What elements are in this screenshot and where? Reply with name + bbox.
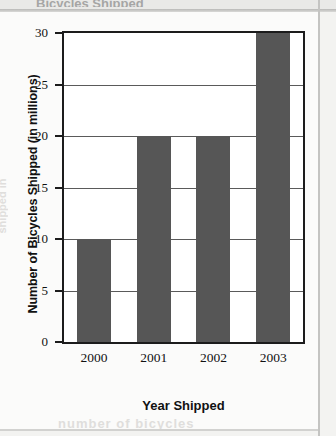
y-tick-label: 25 xyxy=(14,77,48,93)
y-tick-mark xyxy=(55,84,62,86)
bar xyxy=(137,136,171,342)
y-tick-label: 0 xyxy=(14,334,48,350)
x-axis-title: Year Shipped xyxy=(62,398,305,413)
y-tick-mark xyxy=(55,290,62,292)
y-tick-mark xyxy=(55,187,62,189)
x-tick-label: 2001 xyxy=(124,350,184,366)
y-tick-mark xyxy=(55,32,62,34)
x-tick-label: 2002 xyxy=(183,350,243,366)
y-tick-label: 30 xyxy=(14,25,48,41)
bar xyxy=(196,136,230,342)
plot-area xyxy=(62,31,305,344)
y-tick-label: 15 xyxy=(14,180,48,196)
chart-page: Bicycles Shipped shipped in number of bi… xyxy=(0,0,336,436)
bottom-border-rule xyxy=(0,429,318,431)
y-tick-mark xyxy=(55,341,62,343)
y-tick-label: 10 xyxy=(14,231,48,247)
y-tick-mark xyxy=(55,238,62,240)
x-tick-label: 2003 xyxy=(243,350,303,366)
y-tick-label: 5 xyxy=(14,283,48,299)
bar-series xyxy=(64,33,303,342)
bar-chart: Number of Bicycles Shipped (in millions)… xyxy=(0,0,318,436)
y-tick-mark xyxy=(55,135,62,137)
bar xyxy=(256,33,290,342)
y-tick-label: 20 xyxy=(14,128,48,144)
x-tick-label: 2000 xyxy=(64,350,124,366)
bar xyxy=(77,239,111,342)
right-border-rule xyxy=(318,0,320,436)
